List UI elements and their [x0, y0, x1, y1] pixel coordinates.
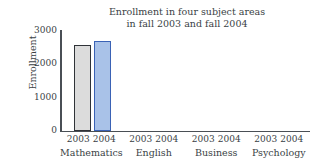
x-year-2003-business: 2003	[192, 134, 215, 144]
x-group-years-business: 20032004	[185, 133, 248, 146]
bar-mathematics-2004	[94, 41, 111, 131]
x-category-english: English	[123, 146, 186, 159]
x-group-business: 20032004 Business	[185, 133, 248, 159]
x-category-psychology: Psychology	[248, 146, 311, 159]
x-category-mathematics: Mathematics	[60, 146, 123, 159]
x-axis-group-labels: 20032004 Mathematics 20032004 English 20…	[60, 133, 310, 166]
x-group-english: 20032004 English	[123, 133, 186, 159]
x-year-2003-english: 2003	[129, 134, 152, 144]
plot-area	[61, 30, 310, 131]
x-year-2004-mathematics: 2004	[93, 134, 116, 144]
x-year-2003-mathematics: 2003	[67, 134, 90, 144]
x-group-years-mathematics: 20032004	[60, 133, 123, 146]
y-tick-3000: 3000	[17, 25, 57, 35]
x-year-2004-business: 2004	[218, 134, 241, 144]
bar-mathematics-2003	[74, 45, 91, 131]
x-group-psychology: 20032004 Psychology	[248, 133, 311, 159]
y-tick-0: 0	[17, 125, 57, 135]
x-group-years-psychology: 20032004	[248, 133, 311, 146]
y-tick-1000: 1000	[17, 92, 57, 102]
x-group-years-english: 20032004	[123, 133, 186, 146]
x-year-2004-psychology: 2004	[280, 134, 303, 144]
x-group-mathematics: 20032004 Mathematics	[60, 133, 123, 159]
x-category-business: Business	[185, 146, 248, 159]
y-tick-2000: 2000	[17, 58, 57, 68]
x-year-2003-psychology: 2003	[254, 134, 277, 144]
chart-screenshot: Enrollment in four subject areas in fall…	[0, 0, 318, 166]
x-year-2004-english: 2004	[155, 134, 178, 144]
